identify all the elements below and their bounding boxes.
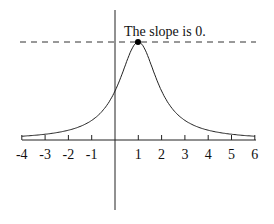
max-point [135, 39, 141, 45]
x-tick-label: -1 [86, 147, 98, 162]
x-tick-label: -4 [16, 147, 28, 162]
x-tick-label: 4 [205, 147, 212, 162]
x-tick-label: 5 [228, 147, 235, 162]
x-tick-label: 6 [251, 147, 258, 162]
x-tick-label: 2 [158, 147, 165, 162]
x-ticks [22, 135, 255, 140]
x-tick-label: -3 [39, 147, 51, 162]
plot-area: -4-3-2-1123456 The slope is 0. [0, 0, 274, 224]
chart: -4-3-2-1123456 The slope is 0. [0, 0, 274, 224]
curve [22, 42, 255, 136]
x-tick-labels: -4-3-2-1123456 [16, 147, 258, 162]
x-tick-label: 1 [135, 147, 142, 162]
slope-annotation: The slope is 0. [124, 24, 206, 39]
x-tick-label: 3 [181, 147, 188, 162]
x-tick-label: -2 [63, 147, 75, 162]
